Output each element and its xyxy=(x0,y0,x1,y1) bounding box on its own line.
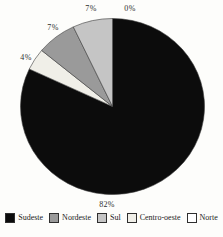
legend-swatch-nordeste xyxy=(49,213,59,223)
legend-item-sudeste: Sudeste xyxy=(5,213,43,223)
legend: SudesteNordesteSulCentro-oesteNorte xyxy=(0,211,223,224)
legend-swatch-centro-oeste xyxy=(127,213,137,223)
legend-item-centro-oeste: Centro-oeste xyxy=(127,213,181,223)
legend-swatch-sudeste xyxy=(5,213,15,223)
legend-item-norte: Norte xyxy=(187,213,218,223)
legend-label-centro-oeste: Centro-oeste xyxy=(140,213,181,222)
legend-swatch-norte xyxy=(187,213,197,223)
pie-svg xyxy=(0,0,223,212)
legend-swatch-sul xyxy=(97,213,107,223)
pie-chart-figure: 82%7%7%4%0% SudesteNordesteSulCentro-oes… xyxy=(0,0,223,237)
legend-label-sul: Sul xyxy=(110,213,121,222)
legend-label-sudeste: Sudeste xyxy=(18,213,43,222)
legend-label-norte: Norte xyxy=(200,213,218,222)
legend-item-nordeste: Nordeste xyxy=(49,213,91,223)
legend-item-sul: Sul xyxy=(97,213,121,223)
legend-label-nordeste: Nordeste xyxy=(62,213,91,222)
